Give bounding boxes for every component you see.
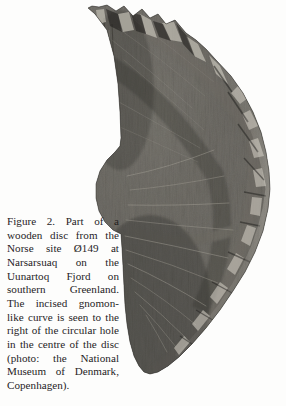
caption-line: (photo: the National xyxy=(7,352,119,366)
caption-line: Norse site Ø149 at xyxy=(7,242,119,256)
figure-page: Figure 2. Part of a wooden disc from the… xyxy=(0,0,286,406)
caption-line: wooden disc from the xyxy=(7,229,119,243)
caption-line: like curve is seen to the xyxy=(7,311,119,325)
caption-line: Figure 2. Part of a xyxy=(7,215,119,229)
caption-line: in the centre of the disc xyxy=(7,338,119,352)
caption-line: The incised gnomon- xyxy=(7,297,119,311)
caption-line: southern Greenland. xyxy=(7,283,119,297)
caption-line: right of the circular hole xyxy=(7,324,119,338)
caption-paragraph: Figure 2. Part of a wooden disc from the… xyxy=(7,215,119,393)
figure-caption: Figure 2. Part of a wooden disc from the… xyxy=(7,215,119,393)
caption-line: Narsarsuaq on the xyxy=(7,256,119,270)
caption-line: Copenhagen). xyxy=(7,379,119,393)
caption-line: Uunartoq Fjord on xyxy=(7,270,119,284)
caption-line: Museum of Denmark, xyxy=(7,365,119,379)
